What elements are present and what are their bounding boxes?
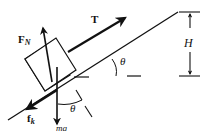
height-label: H — [183, 36, 194, 50]
perpendicular-reference-dash — [85, 106, 92, 117]
block-outline — [25, 38, 76, 91]
friction-arrow — [27, 90, 57, 109]
tension-label: T — [91, 13, 99, 25]
angle-arc-incline — [112, 59, 117, 76]
angle-incline-label: θ — [120, 55, 126, 67]
weight-label: mg — [56, 123, 67, 131]
friction-label: fk — [27, 112, 35, 126]
angle-weight-label: θ — [70, 102, 76, 114]
incline-diagram: T FN fk mg θ θ H — [0, 0, 200, 131]
perpendicular-reference-dash — [76, 90, 82, 100]
normal-force-label: FN — [18, 33, 32, 47]
